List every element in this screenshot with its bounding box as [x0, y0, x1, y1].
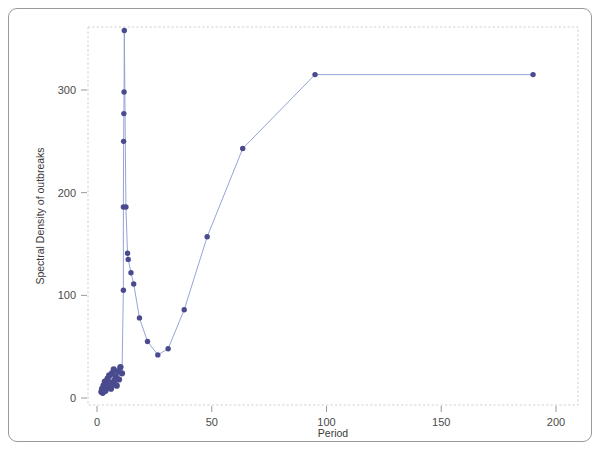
y-tick-label: 200	[58, 187, 76, 199]
spectral-density-chart: 050100150200 0100200300 Period Spectral …	[0, 0, 600, 450]
data-point-marker	[182, 307, 187, 312]
y-axis-title: Spectral Density of outbreaks	[34, 147, 46, 284]
plot-frame	[88, 27, 578, 405]
data-point-marker	[119, 370, 125, 376]
data-point-marker	[121, 111, 126, 116]
y-tick-label: 100	[58, 289, 76, 301]
x-axis-title: Period	[318, 427, 349, 439]
x-tick-label: 150	[432, 416, 450, 428]
data-point-marker	[128, 270, 133, 275]
data-point-marker	[123, 204, 128, 209]
x-tick-label: 50	[206, 416, 218, 428]
data-point-marker	[121, 139, 126, 144]
x-tick-label: 200	[547, 416, 565, 428]
data-point-marker	[137, 315, 142, 320]
data-point-marker	[131, 281, 136, 286]
x-axis-tick-marks	[97, 406, 556, 412]
data-point-marker	[126, 257, 131, 262]
data-series-layer	[98, 28, 535, 396]
data-point-marker	[114, 383, 120, 389]
y-axis-tick-labels: 0100200300	[58, 84, 76, 404]
y-axis-tick-marks	[81, 90, 87, 398]
data-point-marker	[145, 339, 150, 344]
data-point-marker	[125, 251, 130, 256]
y-tick-label: 300	[58, 84, 76, 96]
series-markers	[98, 28, 535, 396]
data-point-marker	[155, 352, 160, 357]
data-point-marker	[240, 146, 245, 151]
data-point-marker	[117, 364, 123, 370]
data-point-marker	[121, 89, 126, 94]
data-point-marker	[121, 288, 126, 293]
data-point-marker	[204, 234, 209, 239]
series-line	[101, 30, 533, 392]
y-tick-label: 0	[70, 392, 76, 404]
data-point-marker	[312, 72, 317, 77]
data-point-marker	[165, 346, 170, 351]
chart-stage: 050100150200 0100200300 Period Spectral …	[0, 0, 600, 450]
x-tick-label: 0	[94, 416, 100, 428]
data-point-marker	[530, 72, 535, 77]
data-point-marker	[122, 28, 127, 33]
data-point-marker	[116, 376, 122, 382]
